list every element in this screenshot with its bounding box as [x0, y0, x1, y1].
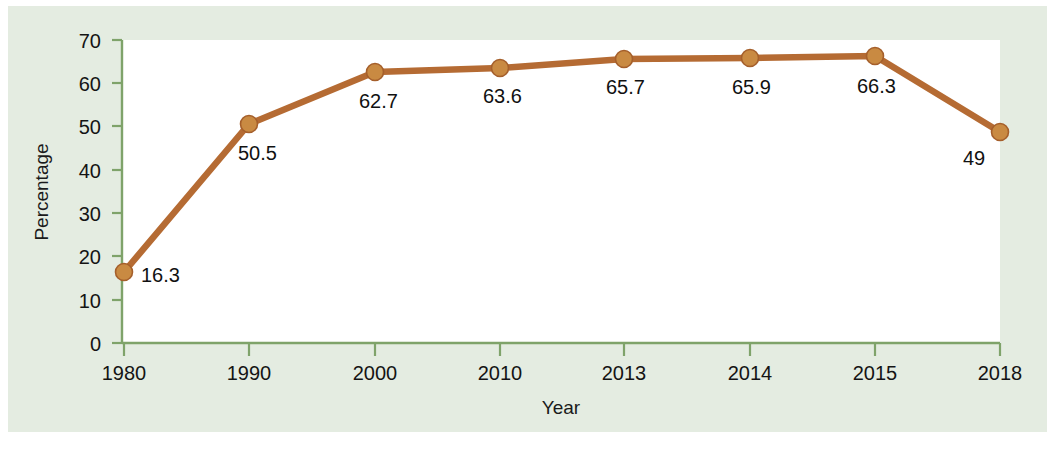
data-labels: 16.3 50.5 62.7 63.6 65.7 65.9 66.3 49	[141, 75, 985, 286]
x-tick-label-2018: 2018	[978, 362, 1023, 384]
data-point-marker[interactable]	[616, 51, 633, 68]
data-label-2018: 49	[963, 147, 985, 169]
x-tick-label-1980: 1980	[102, 362, 147, 384]
data-point-marker[interactable]	[367, 64, 384, 81]
data-point-marker[interactable]	[867, 48, 884, 65]
x-tick-label-2013: 2013	[602, 362, 647, 384]
data-label-2014: 65.9	[732, 76, 771, 98]
y-axis: 70 60 50 40 30 20 10 0 Percentage	[31, 30, 122, 355]
data-point-marker[interactable]	[116, 264, 133, 281]
y-tick-label-60: 60	[79, 73, 101, 95]
y-axis-title: Percentage	[31, 143, 52, 240]
data-point-marker[interactable]	[241, 116, 258, 133]
y-tick-label-30: 30	[79, 203, 101, 225]
data-label-2000: 62.7	[359, 90, 398, 112]
line-chart: 70 60 50 40 30 20 10 0 Percentage 1980 1…	[0, 0, 1055, 457]
x-tick-label-2015: 2015	[853, 362, 898, 384]
x-tick-label-2010: 2010	[478, 362, 523, 384]
x-tick-label-1990: 1990	[227, 362, 272, 384]
x-tick-label-2014: 2014	[728, 362, 773, 384]
chart-figure: 70 60 50 40 30 20 10 0 Percentage 1980 1…	[0, 0, 1055, 457]
y-tick-label-0: 0	[90, 333, 101, 355]
data-label-2015: 66.3	[857, 75, 896, 97]
data-label-2010: 63.6	[483, 85, 522, 107]
y-tick-label-70: 70	[79, 30, 101, 52]
x-axis-title: Year	[542, 397, 581, 418]
x-tick-label-2000: 2000	[353, 362, 398, 384]
x-axis: 1980 1990 2000 2010 2013 2014 2015 2018 …	[102, 343, 1023, 418]
data-label-1990: 50.5	[238, 142, 277, 164]
y-tick-label-40: 40	[79, 160, 101, 182]
data-point-marker[interactable]	[742, 50, 759, 67]
y-tick-label-50: 50	[79, 116, 101, 138]
data-label-1980: 16.3	[141, 264, 180, 286]
y-tick-label-20: 20	[79, 246, 101, 268]
data-point-marker[interactable]	[992, 124, 1009, 141]
y-tick-label-10: 10	[79, 290, 101, 312]
data-point-marker[interactable]	[492, 60, 509, 77]
data-label-2013: 65.7	[606, 76, 645, 98]
